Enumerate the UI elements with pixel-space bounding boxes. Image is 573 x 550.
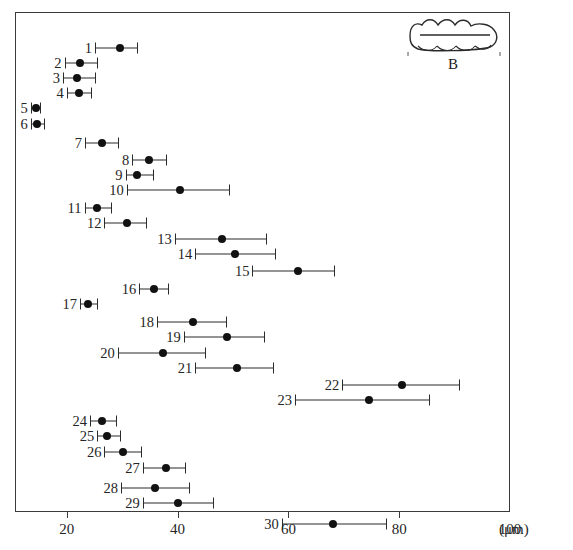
range-cap-max bbox=[275, 249, 276, 260]
axis-tick bbox=[288, 512, 289, 518]
row-label: 12 bbox=[87, 216, 105, 230]
range-cap-min bbox=[104, 218, 105, 229]
range-cap-min bbox=[121, 482, 122, 493]
range-cap-max bbox=[189, 482, 190, 493]
row-label: 30 bbox=[264, 517, 282, 531]
range-cap-min bbox=[90, 416, 91, 427]
row-label: 26 bbox=[87, 445, 105, 459]
row-label: 5 bbox=[21, 101, 31, 115]
range-cap-max bbox=[185, 462, 186, 473]
range-cap-max bbox=[146, 218, 147, 229]
range-cap-max bbox=[459, 380, 460, 391]
chart-root: B 12345678910111213141516171819202122232… bbox=[0, 0, 573, 550]
range-cap-min bbox=[65, 58, 66, 69]
mean-marker bbox=[294, 267, 302, 275]
mean-marker bbox=[218, 235, 226, 243]
range-cap-max bbox=[429, 395, 430, 406]
data-row: 1 bbox=[95, 41, 138, 55]
mean-marker bbox=[174, 499, 182, 507]
axis-tick-label: 60 bbox=[281, 520, 296, 538]
range-cap-min bbox=[143, 497, 144, 508]
axis-tick-label: 20 bbox=[59, 520, 74, 538]
range-cap-min bbox=[31, 118, 32, 129]
mean-marker bbox=[189, 318, 197, 326]
inset-dimension-label: B bbox=[398, 56, 508, 72]
mean-marker bbox=[150, 285, 158, 293]
data-row: 18 bbox=[157, 315, 227, 329]
row-label: 8 bbox=[122, 153, 132, 167]
axis-tick-label: 40 bbox=[170, 520, 185, 538]
mean-marker bbox=[119, 448, 127, 456]
range-cap-min bbox=[126, 169, 127, 180]
row-label: 25 bbox=[80, 429, 98, 443]
data-row: 25 bbox=[97, 429, 121, 443]
data-row: 27 bbox=[143, 461, 186, 475]
range-cap-max bbox=[97, 298, 98, 309]
range-cap-min bbox=[104, 446, 105, 457]
row-label: 10 bbox=[109, 183, 127, 197]
range-cap-max bbox=[264, 331, 265, 342]
mean-marker bbox=[84, 300, 92, 308]
range-cap-min bbox=[132, 154, 133, 165]
data-row: 4 bbox=[67, 86, 92, 100]
row-label: 11 bbox=[68, 201, 85, 215]
x-axis-unit-label: (μm) bbox=[499, 520, 529, 538]
range-cap-max bbox=[266, 234, 267, 245]
axis-tick bbox=[399, 512, 400, 518]
data-row: 26 bbox=[104, 445, 141, 459]
axis-tick-label: 80 bbox=[392, 520, 407, 538]
range-cap-min bbox=[252, 266, 253, 277]
range-cap-min bbox=[342, 380, 343, 391]
range-cap-min bbox=[139, 283, 140, 294]
row-label: 18 bbox=[140, 315, 158, 329]
range-cap-max bbox=[97, 58, 98, 69]
range-cap-min bbox=[63, 73, 64, 84]
mean-marker bbox=[162, 464, 170, 472]
data-row: 16 bbox=[139, 282, 169, 296]
range-cap-max bbox=[205, 347, 206, 358]
row-label: 2 bbox=[54, 56, 64, 70]
range-cap-max bbox=[141, 446, 142, 457]
mean-marker bbox=[123, 219, 131, 227]
data-row: 14 bbox=[195, 247, 275, 261]
range-cap-max bbox=[273, 363, 274, 374]
range-cap-min bbox=[67, 88, 68, 99]
row-label: 14 bbox=[178, 247, 196, 261]
range-line bbox=[295, 400, 430, 401]
range-cap-max bbox=[111, 203, 112, 214]
range-cap-max bbox=[334, 266, 335, 277]
range-cap-min bbox=[143, 462, 144, 473]
data-row: 10 bbox=[127, 183, 231, 197]
range-cap-max bbox=[166, 154, 167, 165]
mean-marker bbox=[73, 74, 81, 82]
row-label: 16 bbox=[122, 282, 140, 296]
data-row: 13 bbox=[175, 232, 267, 246]
range-cap-max bbox=[229, 184, 230, 195]
mean-marker bbox=[32, 104, 40, 112]
range-cap-min bbox=[195, 249, 196, 260]
data-row: 24 bbox=[90, 414, 117, 428]
mean-marker bbox=[329, 520, 337, 528]
range-cap-max bbox=[91, 88, 92, 99]
range-cap-min bbox=[184, 331, 185, 342]
data-row: 22 bbox=[342, 378, 460, 392]
mean-marker bbox=[103, 432, 111, 440]
data-row: 2 bbox=[65, 56, 98, 70]
row-label: 6 bbox=[21, 117, 31, 131]
row-label: 23 bbox=[278, 393, 296, 407]
row-label: 4 bbox=[57, 86, 67, 100]
data-row: 3 bbox=[63, 71, 96, 85]
data-row: 30 bbox=[282, 517, 387, 531]
data-row: 8 bbox=[132, 153, 167, 167]
axis-tick bbox=[67, 512, 68, 518]
data-row: 21 bbox=[195, 361, 274, 375]
range-cap-max bbox=[137, 43, 138, 54]
mean-marker bbox=[93, 204, 101, 212]
range-cap-max bbox=[168, 283, 169, 294]
mean-marker bbox=[98, 417, 106, 425]
data-row: 5 bbox=[31, 101, 41, 115]
range-cap-max bbox=[116, 416, 117, 427]
data-row: 20 bbox=[118, 346, 207, 360]
row-label: 22 bbox=[325, 378, 343, 392]
row-label: 27 bbox=[125, 461, 143, 475]
